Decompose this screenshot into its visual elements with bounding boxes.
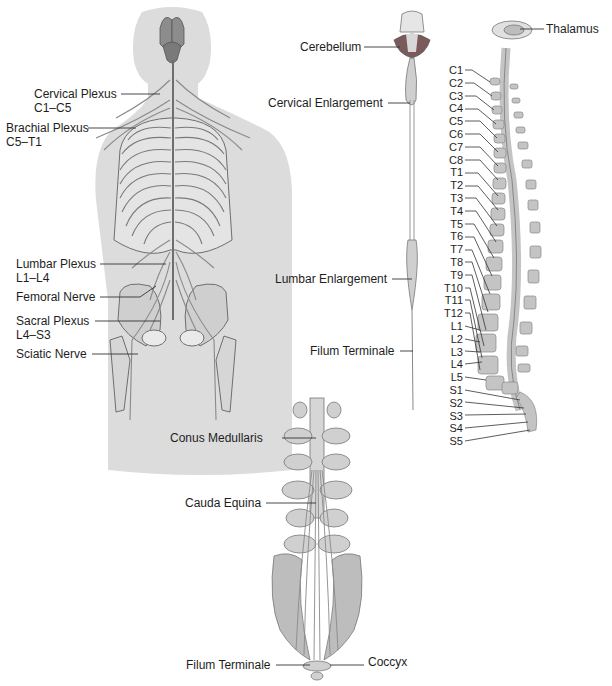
segment-label-l4: L4 (441, 358, 463, 370)
segment-label-t10: T10 (441, 282, 463, 294)
label-filum-terminale-mid: Filum Terminale (310, 344, 394, 358)
segment-label-c7: C7 (441, 141, 463, 153)
label-cauda-equina: Cauda Equina (185, 496, 261, 510)
label-cervical-plexus-range: C1–C5 (34, 101, 117, 115)
segment-label-s4: S4 (441, 422, 463, 434)
segment-label-c6: C6 (441, 128, 463, 140)
segment-label-t8: T8 (441, 256, 463, 268)
label-brachial-plexus: Brachial Plexus C5–T1 (6, 121, 89, 149)
label-brachial-plexus-name: Brachial Plexus (6, 121, 89, 135)
segment-label-t4: T4 (441, 205, 463, 217)
label-sacral-plexus: Sacral Plexus L4–S3 (16, 314, 89, 342)
label-sacral-plexus-name: Sacral Plexus (16, 314, 89, 328)
label-cervical-plexus: Cervical Plexus C1–C5 (34, 87, 117, 115)
label-cervical-enlargement: Cervical Enlargement (268, 96, 383, 110)
segment-label-s1: S1 (441, 384, 463, 396)
segment-label-c5: C5 (441, 115, 463, 127)
isolated-cord (394, 11, 430, 410)
segment-label-c3: C3 (441, 90, 463, 102)
label-lumbar-enlargement: Lumbar Enlargement (275, 272, 387, 286)
segment-label-l1: L1 (441, 320, 463, 332)
label-thalamus: Thalamus (546, 22, 599, 36)
label-sacral-plexus-range: L4–S3 (16, 328, 89, 342)
segment-label-c8: C8 (441, 154, 463, 166)
segment-label-s2: S2 (441, 397, 463, 409)
segment-label-t5: T5 (441, 218, 463, 230)
segment-label-c1: C1 (441, 64, 463, 76)
label-conus-medullaris: Conus Medullaris (170, 431, 263, 445)
segment-label-s3: S3 (441, 410, 463, 422)
segment-label-s5: S5 (441, 435, 463, 447)
segment-label-t9: T9 (441, 269, 463, 281)
segment-label-t2: T2 (441, 179, 463, 191)
label-lumbar-plexus-range: L1–L4 (16, 271, 96, 285)
segment-label-l2: L2 (441, 333, 463, 345)
label-femoral-nerve: Femoral Nerve (16, 290, 95, 304)
label-coccyx: Coccyx (368, 655, 407, 669)
label-lumbar-plexus-name: Lumbar Plexus (16, 257, 96, 271)
label-cerebellum: Cerebellum (300, 40, 361, 54)
segment-label-c4: C4 (441, 102, 463, 114)
segment-label-t12: T12 (441, 307, 463, 319)
segment-label-t11: T11 (441, 294, 463, 306)
segment-label-l3: L3 (441, 346, 463, 358)
segment-label-t7: T7 (441, 243, 463, 255)
segment-label-t1: T1 (441, 166, 463, 178)
segment-label-t3: T3 (441, 192, 463, 204)
label-sciatic-nerve: Sciatic Nerve (16, 347, 87, 361)
segment-label-c2: C2 (441, 77, 463, 89)
label-lumbar-plexus: Lumbar Plexus L1–L4 (16, 257, 96, 285)
segment-label-l5: L5 (441, 371, 463, 383)
label-brachial-plexus-range: C5–T1 (6, 135, 89, 149)
label-cervical-plexus-name: Cervical Plexus (34, 87, 117, 101)
segment-label-t6: T6 (441, 230, 463, 242)
label-filum-terminale-bottom: Filum Terminale (186, 658, 270, 672)
